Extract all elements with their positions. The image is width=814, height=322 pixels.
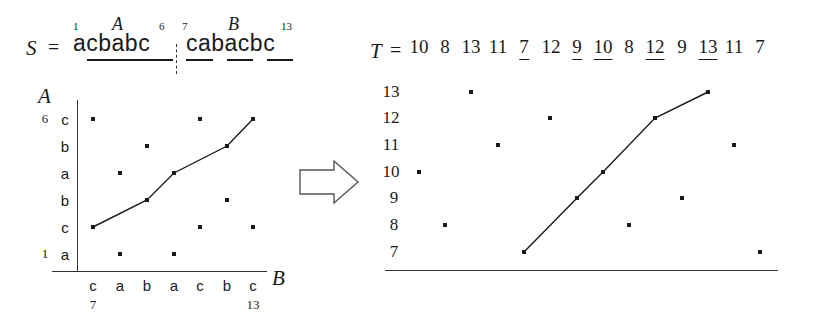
left-plot-y-tick-6: c (61, 111, 69, 128)
underline-b-match-1 (186, 59, 213, 61)
left-plot-dot (145, 144, 149, 148)
t-value-1: 10 (410, 36, 429, 58)
left-plot-dot (172, 171, 176, 175)
left-plot-x-tick-12: b (223, 277, 231, 294)
t-value-7: 9 (572, 36, 582, 60)
right-plot-dot (732, 143, 736, 147)
left-plot-y-tick-1: a (61, 246, 69, 263)
t-value-9: 8 (624, 36, 634, 58)
right-plot-dot (522, 250, 526, 254)
t-value-5: 7 (519, 36, 529, 60)
right-plot-dot (706, 90, 710, 94)
t-value-14: 7 (755, 36, 765, 58)
t-value-4: 11 (489, 36, 507, 58)
t-value-8: 10 (594, 36, 613, 60)
right-plot-y-tick-12: 12 (383, 108, 400, 128)
right-plot-dot (680, 196, 684, 200)
right-plot-dot (627, 223, 631, 227)
right-plot-dot (443, 223, 447, 227)
index-label-6: 6 (159, 20, 165, 32)
right-plot-dot (469, 90, 473, 94)
index-label-7: 7 (182, 20, 188, 32)
left-plot-x-tick-11: c (196, 277, 204, 294)
left-plot-x-axis-name: B (272, 266, 285, 291)
right-plot-y-tick-7: 7 (390, 242, 399, 262)
underline-b-match-3 (267, 59, 293, 61)
underline-b-match-2 (227, 59, 253, 61)
right-plot-y-tick-9: 9 (390, 188, 399, 208)
left-plot-y-axis-line (77, 100, 78, 272)
index-label-1: 1 (73, 20, 79, 32)
left-plot-x-tick-7: c (89, 277, 97, 294)
left-plot-x-axis-line (52, 271, 267, 272)
t-value-6: 12 (542, 36, 561, 58)
right-plot-dot (496, 143, 500, 147)
right-plot-dot (417, 170, 421, 174)
left-plot-y-index-bottom: 1 (42, 246, 49, 262)
left-plot-dot (118, 171, 122, 175)
left-plot-y-tick-4: a (61, 165, 69, 182)
right-plot-dot (758, 250, 762, 254)
left-plot-dot (225, 144, 229, 148)
s-equals-sign: = (48, 36, 59, 59)
left-plot-x-tick-9: b (143, 277, 151, 294)
left-plot-dot (225, 198, 229, 202)
right-plot-dot (601, 170, 605, 174)
underline-a-match (87, 59, 173, 61)
sequence-s-label: S (26, 36, 37, 61)
figure-container: S = acbabc cabacbc A B 1 6 7 13 T = 10 8… (0, 0, 814, 322)
t-value-12: 13 (699, 36, 718, 60)
t-value-11: 9 (677, 36, 687, 58)
t-equals-sign: = (390, 39, 401, 62)
right-plot-y-tick-11: 11 (383, 135, 399, 155)
right-plot-dot (548, 116, 552, 120)
left-plot-x-index-left: 7 (90, 297, 97, 313)
sequence-t-label: T (370, 39, 382, 64)
index-label-13: 13 (281, 20, 292, 32)
left-plot-x-tick-8: a (116, 277, 124, 294)
right-arrow-icon (300, 161, 358, 203)
t-value-2: 8 (440, 36, 450, 58)
left-plot-y-axis-name: A (38, 84, 51, 109)
left-plot-y-index-top: 6 (42, 111, 49, 127)
right-plot-dot (575, 196, 579, 200)
left-plot-dot (198, 225, 202, 229)
left-plot-dot (251, 225, 255, 229)
left-plot-dot (251, 117, 255, 121)
left-plot-dot (172, 252, 176, 256)
right-plot-y-tick-13: 13 (383, 82, 400, 102)
right-plot-y-tick-10: 10 (383, 162, 400, 182)
left-plot-x-index-right: 13 (247, 297, 260, 313)
left-plot-x-tick-10: a (170, 277, 178, 294)
segment-divider (176, 44, 177, 74)
left-plot-y-tick-2: c (61, 219, 69, 236)
left-plot-y-tick-3: b (61, 192, 69, 209)
segment-a-label: A (112, 14, 123, 35)
left-plot-x-tick-13: c (249, 277, 257, 294)
left-plot-dot (91, 225, 95, 229)
segment-b-label: B (228, 14, 239, 35)
right-plot-y-tick-8: 8 (390, 215, 399, 235)
left-plot-dot (145, 198, 149, 202)
left-plot-dot (91, 117, 95, 121)
left-plot-dot (118, 252, 122, 256)
t-value-13: 11 (725, 36, 743, 58)
left-plot-y-tick-5: b (61, 138, 69, 155)
t-value-3: 13 (462, 36, 481, 58)
left-plot-dot (198, 117, 202, 121)
right-plot-x-axis-line (385, 270, 778, 271)
right-plot-dot (653, 116, 657, 120)
t-value-10: 12 (646, 36, 665, 60)
